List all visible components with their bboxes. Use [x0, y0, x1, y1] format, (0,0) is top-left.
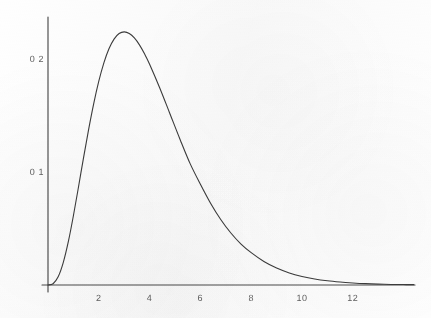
- data-group: [48, 32, 414, 285]
- x-tick-label: 10: [296, 293, 307, 303]
- chart-figure: 24681012 0 10 2: [0, 0, 431, 318]
- x-tick-label: 6: [198, 293, 204, 303]
- x-tick-label: 12: [347, 293, 358, 303]
- x-tick-label: 8: [248, 293, 254, 303]
- y-tick-label: 0 1: [26, 167, 44, 177]
- x-tick-label: 2: [96, 293, 102, 303]
- y-tick-label: 0 2: [26, 54, 44, 64]
- density-curve-line: [48, 32, 414, 285]
- axes-group: [42, 17, 415, 292]
- x-tick-label: 4: [147, 293, 153, 303]
- plot-canvas: [0, 0, 431, 318]
